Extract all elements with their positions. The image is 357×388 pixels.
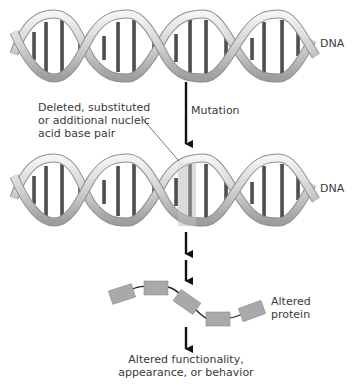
callout-label: Deleted, substituted or additional nucle… [38,101,150,140]
protein-block-1 [108,284,135,305]
protein-block-5 [238,300,265,321]
callout-line-2: or additional nucleic [38,114,150,127]
outcome-label: Altered functionality, appearance, or be… [116,353,256,379]
protein-line-1: Altered [271,295,311,308]
altered-protein-chain [108,281,265,326]
protein-block-2 [144,281,168,295]
callout-line-3: acid base pair [38,127,150,140]
altered-protein-label: Altered protein [271,295,311,321]
dna-helix-bottom [14,158,316,222]
callout-line-1: Deleted, substituted [38,101,150,114]
outcome-line-2: appearance, or behavior [116,366,256,379]
outcome-line-1: Altered functionality, [116,353,256,366]
dna-helix-top [14,14,316,78]
mutation-diagram [0,0,357,388]
dna-label-bottom: DNA [320,182,344,195]
protein-line-2: protein [271,308,311,321]
protein-block-4 [206,312,230,326]
mutation-label: Mutation [191,104,240,117]
dna-label-top: DNA [320,37,344,50]
